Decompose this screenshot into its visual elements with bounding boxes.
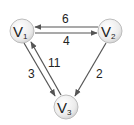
edge-v2-v3: 2: [75, 43, 106, 96]
node-v1-letter: V: [13, 23, 23, 40]
node-v1: V1: [10, 19, 34, 43]
edge-v1-v2: 4: [35, 33, 97, 48]
node-v2-subscript: 2: [111, 32, 116, 41]
edge-weight-v2-v1: 6: [62, 12, 69, 26]
node-v3-subscript: 3: [67, 108, 72, 117]
edge-v3-v1: 11: [31, 42, 61, 95]
node-v3-letter: V: [57, 99, 67, 116]
graph-diagram: 6 4 3 11 2 V1 V2 V3: [0, 0, 134, 125]
node-v1-subscript: 1: [23, 32, 28, 41]
node-v2: V2: [98, 19, 122, 43]
edge-weight-v2-v3: 2: [96, 67, 103, 81]
edge-weight-v3-v1: 11: [48, 56, 61, 70]
edge-v2-v1: 6: [35, 12, 98, 27]
node-v3: V3: [54, 95, 78, 119]
edge-weight-v1-v2: 4: [63, 34, 70, 48]
node-v2-letter: V: [101, 23, 111, 40]
edge-weight-v1-v3: 3: [28, 67, 35, 81]
